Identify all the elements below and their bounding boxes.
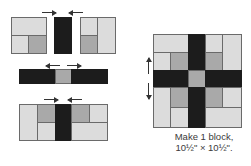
corner-unit-top-left	[11, 17, 47, 54]
corner-unit-bottom-right	[71, 104, 108, 141]
light-rectangle	[222, 34, 242, 71]
dark-strip	[19, 69, 56, 84]
quilt-block	[153, 34, 242, 128]
center-medium-square	[55, 69, 72, 84]
light-square	[37, 122, 56, 141]
medium-square	[170, 52, 189, 71]
medium-square	[71, 104, 90, 123]
medium-square	[28, 35, 47, 54]
light-square	[89, 104, 108, 123]
dark-strip	[188, 87, 206, 128]
light-square	[153, 52, 171, 71]
light-rectangle	[19, 104, 38, 141]
corner-unit-top-right	[80, 17, 116, 54]
dark-strip	[205, 70, 242, 88]
corner-unit-bottom-left	[19, 104, 56, 141]
light-square	[205, 34, 223, 53]
center-medium-square	[188, 70, 206, 88]
pressing-arrow-right-icon	[42, 10, 56, 16]
light-square	[11, 35, 29, 54]
caption-line-1: Make 1 block,	[158, 131, 250, 142]
medium-square	[205, 52, 223, 71]
light-square	[170, 107, 189, 128]
dark-strip	[188, 34, 206, 71]
light-rectangle	[153, 87, 171, 128]
dark-strip	[71, 69, 108, 84]
dark-strip	[153, 70, 189, 88]
pressing-arrow-left-icon	[69, 10, 83, 16]
medium-square	[80, 35, 98, 54]
block-caption: Make 1 block, 10½" × 10½".	[158, 131, 250, 153]
dark-strip	[54, 17, 72, 54]
medium-square	[205, 87, 223, 108]
light-rectangle	[71, 122, 108, 141]
light-rectangle	[153, 34, 189, 53]
light-rectangle	[205, 107, 242, 128]
pressing-arrow-down-icon	[146, 83, 152, 99]
caption-line-2: 10½" × 10½".	[158, 142, 250, 153]
dark-strip	[55, 104, 72, 141]
light-square	[222, 87, 242, 108]
medium-square	[37, 104, 56, 123]
light-rectangle	[97, 17, 116, 54]
pressing-arrow-up-icon	[146, 58, 152, 74]
pressing-arrow-right-icon	[44, 97, 58, 103]
light-rectangle	[11, 17, 47, 36]
medium-square	[170, 87, 189, 108]
light-square	[80, 17, 98, 36]
pressing-arrow-left-icon	[68, 97, 82, 103]
